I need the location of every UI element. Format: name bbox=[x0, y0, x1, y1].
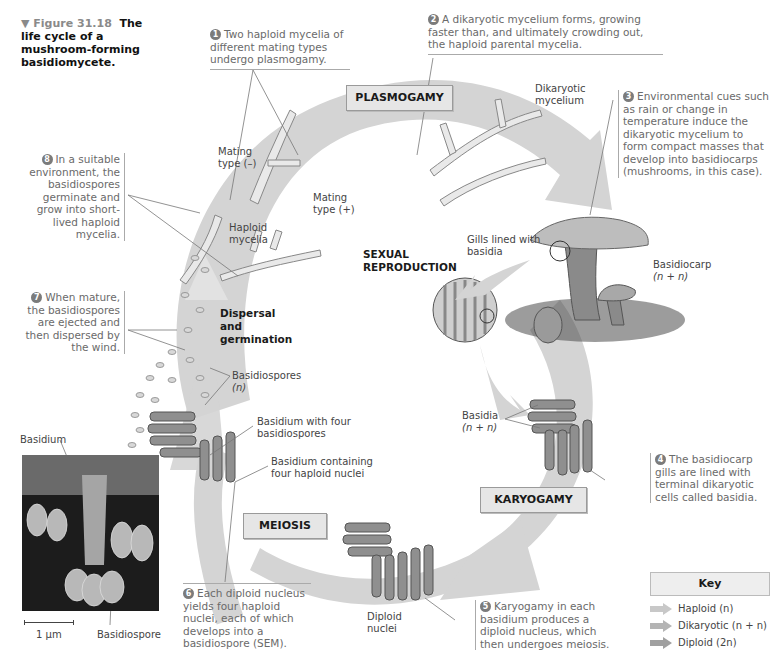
stage-meiosis: MEIOSIS bbox=[243, 513, 327, 539]
key-legend: Key Haploid (n) Dikaryotic (n + n) Diplo… bbox=[650, 572, 770, 651]
basidium-four-spores-label: Basidium with four basidiospores bbox=[257, 416, 357, 440]
step-2-text: A dikaryotic mycelium forms, growing fas… bbox=[428, 13, 643, 50]
basidia-label: Basidia (n + n) bbox=[462, 410, 512, 434]
sem-basidium-label: Basidium bbox=[20, 434, 66, 446]
dikaryotic-mycelium-label: Dikaryotic mycelium bbox=[535, 83, 595, 107]
diploid-arrow-icon bbox=[650, 637, 672, 649]
step-5-caption: 5Karyogamy in each basidium produces a d… bbox=[475, 600, 620, 650]
step-number-badge: 2 bbox=[428, 14, 439, 25]
step-8-caption: 8In a suitable environment, the basidios… bbox=[22, 153, 125, 241]
basidiospores-label: Basidiospores (n) bbox=[232, 370, 312, 394]
step-6-caption: 6Each diploid nucleus yields four haploi… bbox=[183, 583, 311, 650]
key-item-dikaryotic: Dikaryotic (n + n) bbox=[650, 617, 770, 634]
key-label: Dikaryotic (n + n) bbox=[678, 620, 767, 631]
step-2-caption: 2A dikaryotic mycelium forms, growing fa… bbox=[428, 13, 663, 55]
step-number-badge: 6 bbox=[183, 588, 194, 599]
step-1-text: Two haploid mycelia of different mating … bbox=[210, 28, 343, 65]
key-title: Key bbox=[650, 572, 770, 596]
step-7-caption: 7When mature, the basidiospores are ejec… bbox=[18, 291, 125, 354]
mating-type-plus-label: Mating type (+) bbox=[313, 192, 363, 216]
key-label: Haploid (n) bbox=[678, 603, 733, 614]
sexual-reproduction-label: SEXUAL REPRODUCTION bbox=[363, 248, 458, 274]
step-6-text: Each diploid nucleus yields four haploid… bbox=[183, 587, 305, 649]
key-item-diploid: Diploid (2n) bbox=[650, 634, 770, 651]
step-4-text: The basidiocarp gills are lined with ter… bbox=[655, 453, 757, 503]
mating-type-minus-label: Mating type (–) bbox=[218, 146, 268, 170]
dikaryotic-arrow-icon bbox=[650, 620, 672, 632]
haploid-arrow-icon bbox=[650, 603, 672, 615]
key-item-haploid: Haploid (n) bbox=[650, 600, 770, 617]
step-4-caption: 4The basidiocarp gills are lined with te… bbox=[650, 453, 775, 503]
sem-micrograph bbox=[22, 455, 159, 611]
step-number-badge: 7 bbox=[31, 292, 42, 303]
scale-bar bbox=[24, 620, 74, 625]
stage-karyogamy: KARYOGAMY bbox=[480, 487, 587, 513]
stage-plasmogamy: PLASMOGAMY bbox=[346, 85, 453, 111]
step-number-badge: 4 bbox=[655, 454, 666, 465]
step-number-badge: 5 bbox=[480, 601, 491, 612]
basidia-text: Basidia bbox=[462, 410, 512, 422]
step-number-badge: 1 bbox=[210, 29, 221, 40]
diploid-nuclei-label: Diploid nuclei bbox=[367, 611, 412, 635]
step-1-caption: 1Two haploid mycelia of different mating… bbox=[210, 28, 350, 70]
step-3-caption: 3Environmental cues such as rain or chan… bbox=[618, 90, 771, 178]
basidium-four-nuclei-label: Basidium containing four haploid nuclei bbox=[271, 456, 376, 480]
step-8-text: In a suitable environment, the basidiosp… bbox=[29, 153, 120, 240]
basidia-ploidy: (n + n) bbox=[462, 422, 512, 434]
figure-title: ▼ Figure 31.18 The life cycle of a mushr… bbox=[21, 17, 161, 69]
basidiospores-ploidy: (n) bbox=[232, 382, 312, 394]
basidiocarp-text: Basidiocarp bbox=[653, 259, 733, 271]
haploid-mycelia-label: Haploid mycelia bbox=[229, 222, 284, 246]
step-5-text: Karyogamy in each basidium produces a di… bbox=[480, 600, 609, 650]
basidiospores-text: Basidiospores bbox=[232, 370, 312, 382]
basidiocarp-ploidy: (n + n) bbox=[653, 271, 733, 283]
scale-bar-label: 1 µm bbox=[36, 629, 62, 641]
gills-label: Gills lined with basidia bbox=[467, 234, 547, 258]
step-number-badge: 8 bbox=[42, 154, 53, 165]
sem-basidiospore-label: Basidiospore bbox=[97, 629, 161, 641]
step-number-badge: 3 bbox=[623, 91, 634, 102]
figure-marker: ▼ Figure 31.18 bbox=[21, 17, 112, 30]
basidiocarp-label: Basidiocarp (n + n) bbox=[653, 259, 733, 283]
step-3-text: Environmental cues such as rain or chang… bbox=[623, 90, 769, 177]
dispersal-germination-label: Dispersal and germination bbox=[220, 307, 295, 346]
key-label: Diploid (2n) bbox=[678, 637, 737, 648]
